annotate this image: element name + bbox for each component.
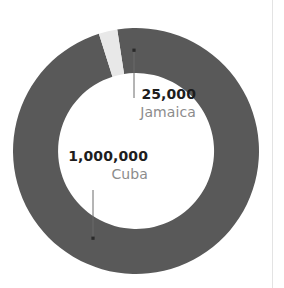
slice-value-cuba: 1,000,000 [8,148,148,166]
slice-name-cuba: Cuba [8,166,148,184]
slice-label-cuba: 1,000,000 Cuba [8,148,148,183]
slice-value-jamaica: 25,000 [56,86,196,104]
slice-label-jamaica: 25,000 Jamaica [56,86,196,121]
donut-chart-figure: 25,000 Jamaica 1,000,000 Cuba [0,0,284,288]
slice-name-jamaica: Jamaica [56,104,196,122]
donut-chart-graphic [0,0,284,288]
